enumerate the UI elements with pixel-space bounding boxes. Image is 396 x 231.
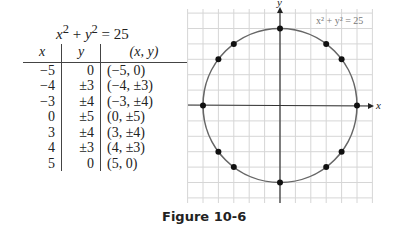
- x-axis-arrow-icon: [368, 103, 374, 109]
- circle-graph: x y x² + y² = 25: [0, 0, 396, 231]
- figure-caption: Figure 10-6: [162, 209, 246, 224]
- data-point: [277, 26, 283, 32]
- data-point: [339, 149, 345, 155]
- data-point: [231, 164, 237, 170]
- data-point: [339, 56, 345, 62]
- data-point: [215, 149, 221, 155]
- x-axis-label: x: [375, 99, 381, 111]
- equation-label: x² + y² = 25: [316, 15, 363, 26]
- data-point: [200, 103, 206, 109]
- y-axis-label: y: [276, 0, 282, 8]
- data-point: [323, 164, 329, 170]
- data-point: [215, 56, 221, 62]
- data-point: [231, 41, 237, 47]
- data-point: [277, 180, 283, 186]
- data-point: [354, 103, 360, 109]
- data-point: [323, 41, 329, 47]
